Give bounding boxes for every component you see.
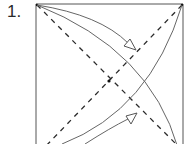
fold-arrow-bottom: [85, 119, 128, 144]
corner-arc-top-left: [37, 5, 178, 144]
arrowhead-bottom-icon: [126, 113, 137, 124]
paper-square: [36, 4, 183, 144]
origami-diagram: [0, 0, 195, 144]
center-point-icon: [107, 79, 110, 82]
valley-fold-diagonal-1: [37, 5, 180, 144]
valley-fold-diagonal-2: [44, 5, 182, 144]
